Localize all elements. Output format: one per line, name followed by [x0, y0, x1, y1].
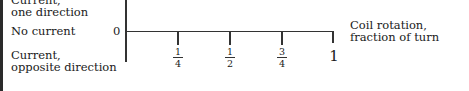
origin-label: 0: [113, 25, 120, 37]
frac-den: 4: [171, 59, 185, 68]
y-label-bottom-line2: opposite direction: [11, 61, 117, 73]
tick-half: [229, 31, 231, 45]
y-label-current-opposite-direction: Current, opposite direction: [11, 49, 117, 73]
frac-num: 1: [171, 47, 185, 56]
tick-label-three-quarter: 3 4: [275, 47, 289, 68]
frac-den: 2: [223, 59, 237, 68]
tick-label-full-turn: 1: [327, 48, 341, 64]
tick-quarter: [177, 31, 179, 45]
frac-num: 1: [223, 47, 237, 56]
y-label-no-current: No current: [11, 25, 75, 37]
tick-full-turn: [332, 31, 334, 43]
tick-label-half: 1 2: [223, 47, 237, 68]
x-axis-title-line2: fraction of turn: [350, 31, 439, 43]
x-axis-title: Coil rotation, fraction of turn: [350, 19, 439, 43]
tick-three-quarter: [281, 31, 283, 45]
frac-num: 3: [275, 47, 289, 56]
frac-den: 4: [275, 59, 289, 68]
y-label-current-one-direction: Current, one direction: [11, 0, 88, 18]
tick-label-quarter: 1 4: [171, 47, 185, 68]
y-label-top-line2: one direction: [11, 6, 88, 18]
left-edge-bar: [0, 0, 3, 91]
